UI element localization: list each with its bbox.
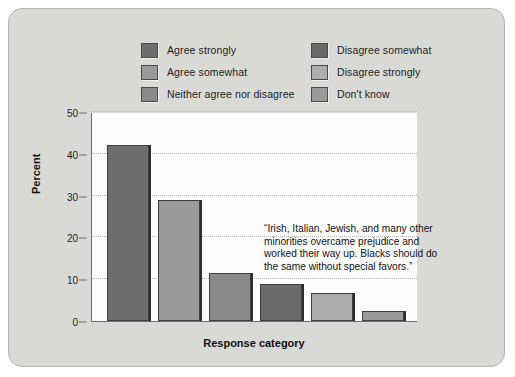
bar-slot	[153, 113, 204, 321]
legend-swatch-icon	[311, 87, 328, 102]
bar[interactable]	[158, 200, 200, 321]
y-axis-tick-label: 10	[67, 275, 78, 286]
y-axis-tick-label: 20	[67, 233, 78, 244]
bar-slot	[102, 113, 153, 321]
y-axis-tick-mark	[79, 154, 87, 155]
legend-item-neither[interactable]: Neither agree nor disagree	[141, 83, 295, 105]
legend-label: Agree strongly	[167, 44, 236, 56]
legend-label: Disagree somewhat	[337, 44, 432, 56]
bar[interactable]	[311, 293, 353, 321]
legend-swatch-icon	[311, 43, 328, 58]
legend-item-disagree-somewhat[interactable]: Disagree somewhat	[311, 39, 432, 61]
legend-swatch-icon	[311, 65, 328, 80]
legend-label: Don't know	[337, 88, 390, 100]
legend-item-dont-know[interactable]: Don't know	[311, 83, 432, 105]
y-axis-tick-mark	[79, 113, 87, 114]
y-axis-title: Percent	[30, 154, 42, 194]
legend-label: Disagree strongly	[337, 66, 420, 78]
annotation-text: “Irish, Italian, Jewish, and many other …	[264, 223, 449, 273]
gridline	[92, 111, 417, 112]
bar[interactable]	[362, 311, 404, 321]
y-axis-tick-mark	[79, 280, 87, 281]
y-axis-tick-mark	[79, 238, 87, 239]
x-axis-title: Response category	[91, 337, 417, 349]
bar-slot	[204, 113, 255, 321]
legend-item-disagree-strongly[interactable]: Disagree strongly	[311, 61, 432, 83]
legend-column-right: Disagree somewhat Disagree strongly Don'…	[311, 39, 432, 105]
bar-slot	[307, 113, 358, 321]
y-axis-tick-mark	[79, 196, 87, 197]
bar-series	[92, 113, 417, 321]
legend-swatch-icon	[141, 87, 158, 102]
chart-legend: Agree strongly Agree somewhat Neither ag…	[141, 39, 441, 105]
y-axis-tick-label: 0	[72, 317, 78, 328]
legend-column-left: Agree strongly Agree somewhat Neither ag…	[141, 39, 295, 105]
legend-item-agree-somewhat[interactable]: Agree somewhat	[141, 61, 295, 83]
bar-slot	[358, 113, 409, 321]
y-axis: 01020304050	[57, 107, 87, 329]
legend-item-agree-strongly[interactable]: Agree strongly	[141, 39, 295, 61]
bar[interactable]	[209, 273, 251, 321]
y-axis-tick-label: 30	[67, 191, 78, 202]
y-axis-tick-label: 40	[67, 149, 78, 160]
y-axis-tick-label: 50	[67, 108, 78, 119]
y-axis-tick-mark	[79, 322, 87, 323]
bar[interactable]	[107, 145, 149, 321]
figure-panel: Agree strongly Agree somewhat Neither ag…	[8, 8, 505, 367]
legend-swatch-icon	[141, 43, 158, 58]
bar[interactable]	[260, 284, 302, 321]
legend-label: Agree somewhat	[167, 66, 247, 78]
bar-slot	[256, 113, 307, 321]
legend-swatch-icon	[141, 65, 158, 80]
legend-label: Neither agree nor disagree	[167, 88, 295, 100]
plot-area: “Irish, Italian, Jewish, and many other …	[91, 113, 417, 322]
